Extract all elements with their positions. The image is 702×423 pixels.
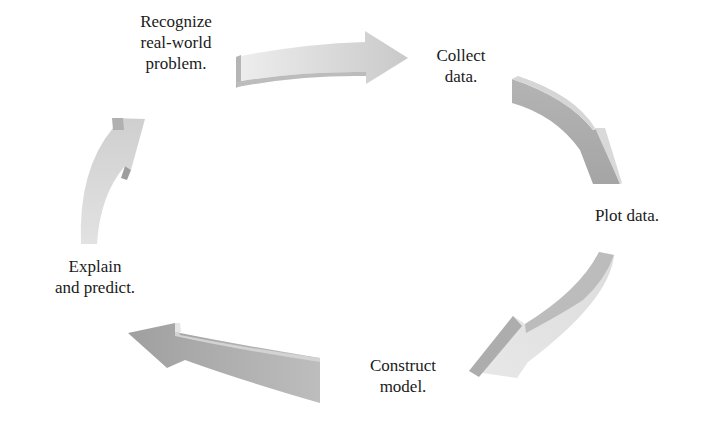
- cycle-diagram: Recognize real-world problem. Collect da…: [0, 0, 702, 423]
- arrow-plot-to-construct-icon: [469, 252, 614, 378]
- step-line: Recognize: [116, 11, 236, 32]
- step-line: real-world: [116, 32, 236, 53]
- step-line: data.: [416, 66, 506, 87]
- step-line: Collect: [416, 45, 506, 66]
- arrow-explain-to-recognize-icon: [81, 118, 145, 244]
- step-line: model.: [348, 376, 458, 397]
- step-plot-label: Plot data.: [572, 205, 682, 226]
- step-line: problem.: [116, 53, 236, 74]
- step-line: Explain: [30, 256, 160, 277]
- step-recognize-label: Recognize real-world problem.: [116, 11, 236, 74]
- step-line: and predict.: [30, 277, 160, 298]
- step-construct-label: Construct model.: [348, 355, 458, 397]
- step-line: Construct: [348, 355, 458, 376]
- step-collect-label: Collect data.: [416, 45, 506, 87]
- arrow-construct-to-explain-icon: [128, 323, 320, 403]
- arrow-recognize-to-collect-icon: [236, 31, 408, 88]
- step-explain-label: Explain and predict.: [30, 256, 160, 298]
- step-line: Plot data.: [572, 205, 682, 226]
- arrow-collect-to-plot-icon: [512, 76, 622, 184]
